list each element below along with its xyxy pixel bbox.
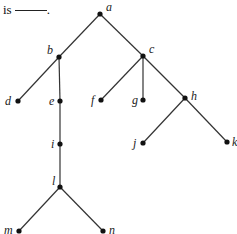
node-dot [140, 97, 145, 102]
tree-node-f: f [91, 93, 104, 107]
tree-node-k: k [224, 135, 237, 149]
node-label: b [47, 43, 53, 57]
tree-node-c: c [140, 42, 155, 59]
node-label: j [131, 136, 137, 150]
node-label: l [52, 174, 56, 188]
node-label: h [191, 89, 197, 103]
edge-a-b [59, 14, 100, 57]
tree-node-n: n [100, 223, 115, 234]
node-dot [100, 228, 105, 233]
node-label: g [132, 93, 138, 107]
node-dot [140, 53, 145, 58]
node-dot [140, 140, 145, 145]
node-label: f [91, 93, 96, 107]
tree-node-j: j [131, 136, 146, 150]
node-label: m [4, 223, 13, 234]
edge-l-n [60, 187, 103, 231]
node-label: d [5, 94, 12, 108]
node-dot [56, 54, 61, 59]
node-dot [57, 141, 62, 146]
tree-node-h: h [182, 89, 197, 103]
tree-node-l: l [52, 174, 63, 190]
tree-node-d: d [5, 94, 21, 108]
node-dot [224, 139, 229, 144]
edge-l-m [19, 187, 60, 231]
node-dot [57, 98, 62, 103]
node-label: c [149, 42, 155, 56]
node-dot [98, 97, 103, 102]
node-label: k [232, 135, 237, 149]
node-label: n [109, 223, 115, 234]
node-dot [182, 95, 187, 100]
tree-node-i: i [51, 137, 63, 151]
tree-diagram: abcdefghijklmn [0, 0, 237, 234]
edge-h-k [185, 98, 227, 142]
tree-node-a: a [97, 0, 112, 17]
tree-nodes: abcdefghijklmn [4, 0, 237, 234]
node-dot [15, 98, 20, 103]
node-dot [16, 228, 21, 233]
edge-h-j [143, 98, 185, 143]
node-dot [97, 11, 102, 16]
node-label: i [51, 137, 54, 151]
edge-a-c [100, 14, 143, 56]
node-label: a [106, 0, 112, 14]
edge-b-e [59, 57, 60, 101]
tree-node-b: b [47, 43, 62, 60]
node-label: e [49, 94, 55, 108]
edge-c-h [143, 56, 185, 98]
node-dot [57, 184, 62, 189]
tree-node-m: m [4, 223, 22, 234]
